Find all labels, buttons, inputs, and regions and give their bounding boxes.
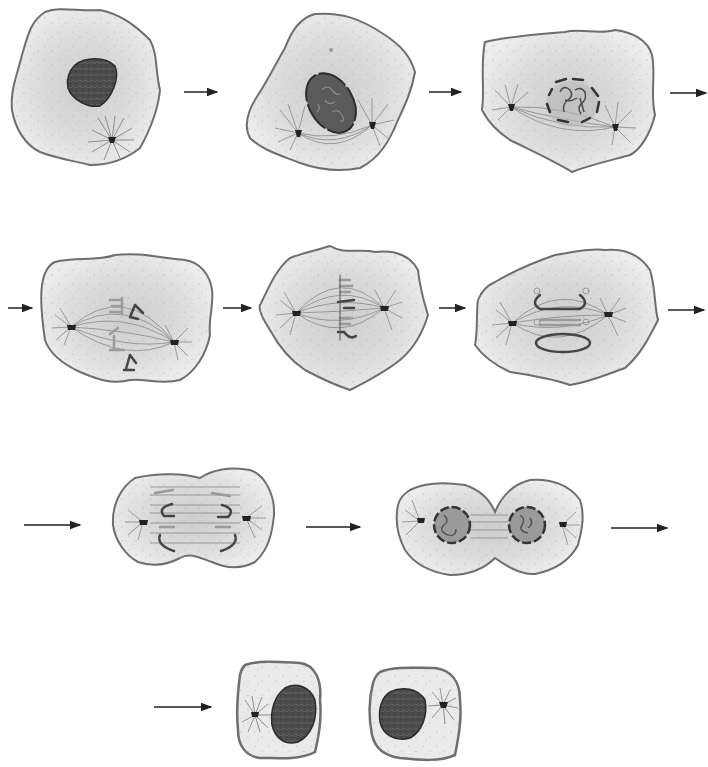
stage-4-cell [41,254,212,382]
centrosome [380,306,389,311]
mitosis-diagram [0,0,708,767]
centrosome [604,312,613,317]
centrosome [508,321,517,326]
nucleus [379,689,425,739]
forming-nucleus-left [434,507,470,543]
stage-9-daughter-cell-left [237,662,320,758]
centrosome [139,520,148,525]
stage-5-cell [259,246,428,390]
stage-9-daughter-cell-right [370,668,461,760]
stage-3-cell [482,30,655,172]
centrosome [251,712,259,717]
centrosome [559,522,567,527]
centrosome [242,516,251,521]
stage-2-cell [247,14,415,170]
centrosome [67,325,76,330]
stage-7-cell [113,468,274,567]
centrosome [292,311,301,316]
centrosome [417,518,425,523]
stage-8-cell [397,480,583,575]
stage-6-cell [475,249,658,385]
forming-nucleus-right [509,507,545,543]
stage-1-cell [12,9,160,165]
centrosome [170,340,179,345]
